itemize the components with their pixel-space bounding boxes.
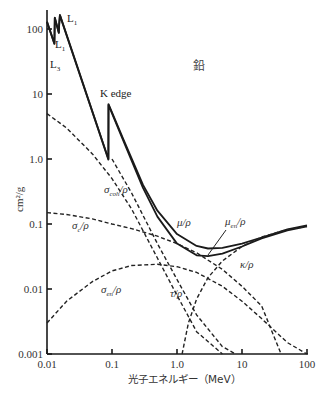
label-tau: τ/ρ — [170, 287, 182, 299]
y-tick-label: 0.001 — [18, 348, 43, 360]
mu-en-leader-line — [208, 230, 226, 255]
chart-title: 鉛 — [193, 59, 205, 73]
label-mu-en: μen/ρ — [224, 215, 245, 230]
curve-c — [47, 213, 281, 354]
y-tick-label: 0.01 — [24, 283, 43, 295]
label-mu: μ/ρ — [176, 216, 191, 228]
y-axis-label: cm²/g — [13, 186, 25, 212]
curve-coh — [47, 114, 222, 354]
curve-en — [47, 264, 307, 354]
attenuation-chart: 0.010.11.0101000.0010.010.11.010100 L1 L… — [0, 0, 329, 400]
curves — [47, 15, 307, 354]
curve- — [47, 15, 307, 249]
y-tick-label: 0.1 — [29, 218, 43, 230]
annotation-L1-top: L1 — [67, 12, 78, 27]
x-tick-label: 10 — [237, 358, 249, 370]
y-tick-label: 1.0 — [29, 153, 43, 165]
x-tick-label: 100 — [299, 358, 316, 370]
annotation-L1: L1 — [55, 38, 66, 53]
axis-ticks: 0.010.11.0101000.0010.010.11.010100 — [18, 23, 316, 370]
curve- — [182, 226, 307, 354]
annotation-k-edge: K edge — [100, 87, 132, 99]
axes — [47, 10, 308, 354]
y-tick-label: 10 — [32, 88, 44, 100]
x-axis-label: 光子エネルギー（MeV） — [128, 373, 241, 385]
label-kappa: κ/ρ — [240, 258, 254, 270]
annotation-L3: L3 — [50, 58, 61, 73]
label-sigma-en: σen/ρ — [101, 283, 121, 298]
y-tick-label: 100 — [27, 23, 44, 35]
curve- — [112, 159, 236, 354]
label-sigma-c: σc/ρ — [72, 219, 89, 234]
x-tick-label: 0.1 — [105, 358, 119, 370]
x-tick-label: 1.0 — [170, 358, 184, 370]
